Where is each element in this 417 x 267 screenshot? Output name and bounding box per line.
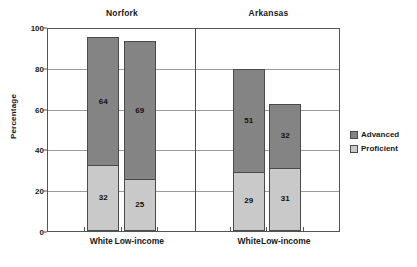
x-label-norfork-low-income: Low-income <box>103 236 176 246</box>
x-tick-4 <box>230 227 231 231</box>
bar-value-label: 32 <box>281 132 290 140</box>
bar-segment-advanced: 51 <box>234 70 264 172</box>
x-tick-6 <box>303 227 304 231</box>
x-label-arkansas-low-income: Low-income <box>249 236 322 246</box>
stacked-bar-chart: Percentage 100 80 60 40 20 0 Norfork Ark… <box>0 0 417 267</box>
legend: Advanced Proficient <box>350 130 414 158</box>
y-axis-tick-labels: 100 80 60 40 20 0 <box>22 28 44 232</box>
y-axis-title: Percentage <box>4 0 24 232</box>
bar-segment-advanced: 69 <box>125 42 155 180</box>
legend-label-proficient: Proficient <box>361 144 398 153</box>
bar-segment-proficient: 32 <box>88 166 118 230</box>
bar-value-label: 69 <box>135 107 144 115</box>
bar-norfork-low-income[interactable]: 69 25 <box>124 41 156 231</box>
plot-area: 64 32 69 25 51 <box>47 28 340 232</box>
legend-item-advanced[interactable]: Advanced <box>350 130 414 139</box>
legend-item-proficient[interactable]: Proficient <box>350 144 414 153</box>
y-tick-label-0: 0 <box>22 228 44 237</box>
y-axis-title-label: Percentage <box>10 93 19 138</box>
bar-segment-proficient: 29 <box>234 173 264 230</box>
bar-value-label: 32 <box>99 194 108 202</box>
bar-segment-advanced: 64 <box>88 38 118 166</box>
panel-title-arkansas: Arkansas <box>196 8 341 18</box>
legend-label-advanced: Advanced <box>361 130 399 139</box>
x-tick-2 <box>121 227 122 231</box>
bar-arkansas-low-income[interactable]: 32 31 <box>269 104 301 231</box>
bar-group-arkansas-low-income: 32 31 <box>269 29 301 231</box>
bar-value-label: 31 <box>281 195 290 203</box>
legend-swatch-proficient-icon <box>350 145 358 153</box>
bar-norfork-white[interactable]: 64 32 <box>87 37 119 231</box>
bar-group-norfork-low-income: 69 25 <box>124 29 156 231</box>
legend-swatch-advanced-icon <box>350 131 358 139</box>
y-tick-label-20: 20 <box>22 187 44 196</box>
bar-segment-proficient: 31 <box>270 169 300 230</box>
x-tick-5 <box>266 227 267 231</box>
bar-arkansas-white[interactable]: 51 29 <box>233 69 265 231</box>
x-tick-1 <box>84 227 85 231</box>
y-tick-label-80: 80 <box>22 64 44 73</box>
y-tick-label-60: 60 <box>22 105 44 114</box>
bar-segment-proficient: 25 <box>125 180 155 230</box>
bar-group-arkansas-white: 51 29 <box>233 29 265 231</box>
panel-title-norfork: Norfork <box>48 8 196 18</box>
x-axis-category-labels: White Low-income White Low-income <box>47 236 340 252</box>
bar-value-label: 25 <box>135 201 144 209</box>
bar-value-label: 51 <box>244 117 253 125</box>
y-tick-label-40: 40 <box>22 146 44 155</box>
bar-value-label: 29 <box>244 197 253 205</box>
bar-group-norfork-white: 64 32 <box>87 29 119 231</box>
bar-segment-advanced: 32 <box>270 105 300 169</box>
y-tick-label-100: 100 <box>22 24 44 33</box>
bar-value-label: 64 <box>99 98 108 106</box>
x-tick-3 <box>157 227 158 231</box>
panel-divider <box>195 29 196 231</box>
